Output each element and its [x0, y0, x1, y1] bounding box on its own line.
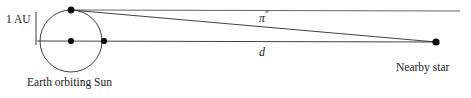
one-au-label: 1 AU [6, 13, 31, 25]
sun-dot [68, 38, 74, 44]
distance-label: d [259, 45, 265, 60]
parallax-sightline [71, 10, 436, 42]
stellar-parallax-diagram: 1 AU Earth orbiting Sun π″ d Nearby star [0, 0, 471, 98]
nearby-star-dot [432, 38, 439, 45]
parallax-angle-label: π″ [259, 9, 269, 26]
earth-orbiting-sun-label: Earth orbiting Sun [27, 76, 112, 88]
distance-baseline [37, 41, 436, 42]
nearby-star-label: Nearby star [396, 61, 449, 73]
arcsecond-prime-symbol: ″ [265, 9, 269, 19]
earth-dot-top [68, 7, 75, 14]
earth-dot-right [101, 38, 107, 44]
